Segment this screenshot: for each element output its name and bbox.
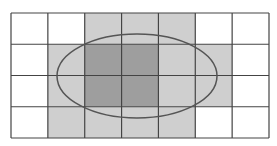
grid-cell: [122, 13, 159, 44]
grid-cell: [232, 13, 269, 44]
grid-cell: [232, 107, 269, 138]
grid-cell: [158, 107, 195, 138]
grid-cell: [85, 13, 122, 44]
grid-cell: [232, 44, 269, 75]
grid-cell: [11, 76, 48, 107]
grid-cell: [11, 44, 48, 75]
grid-cell: [122, 76, 159, 107]
grid-cell: [85, 76, 122, 107]
grid-cell: [48, 44, 85, 75]
grid-cell: [85, 107, 122, 138]
grid-cell: [48, 76, 85, 107]
grid-cell: [85, 44, 122, 75]
grid-cell: [122, 107, 159, 138]
grid-cell: [48, 107, 85, 138]
grid-cell: [158, 76, 195, 107]
grid-cell: [195, 13, 232, 44]
grid-cell: [158, 44, 195, 75]
grid-cell: [122, 44, 159, 75]
grid-cell: [195, 107, 232, 138]
grid-cell: [195, 44, 232, 75]
grid-cell: [232, 76, 269, 107]
pixel-grid-diagram: [0, 0, 277, 146]
grid-cell: [48, 13, 85, 44]
grid-cell: [11, 107, 48, 138]
grid-cell: [11, 13, 48, 44]
